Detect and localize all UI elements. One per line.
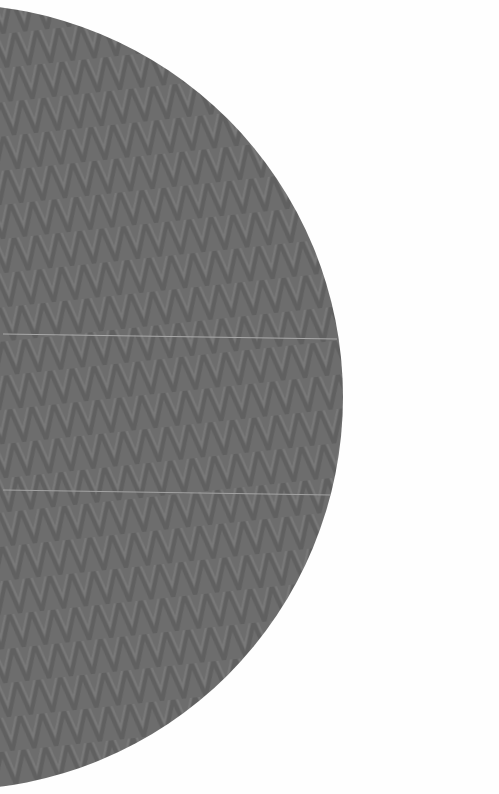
half-disc-photo [0,0,499,794]
photo-scene [0,0,499,794]
